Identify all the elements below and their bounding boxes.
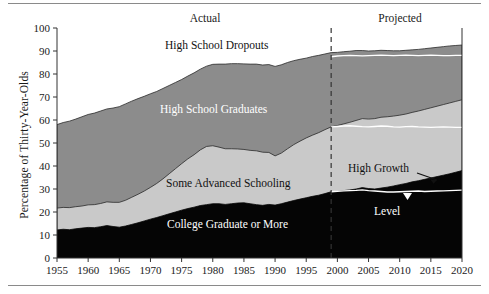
annotation-high-growth-label: High Growth	[348, 162, 409, 175]
x-tick-label: 1980	[202, 264, 225, 276]
x-tick-label: 1995	[295, 264, 318, 276]
x-tick-label: 1990	[264, 264, 287, 276]
x-tick-label: 1970	[139, 264, 162, 276]
x-tick-label: 1975	[171, 264, 194, 276]
annotation-level-label: Level	[374, 205, 400, 217]
band-label-high-school-dropouts: High School Dropouts	[165, 39, 269, 52]
x-tick-label: 2020	[451, 264, 474, 276]
stacked-area-chart: 0102030405060708090100 19551960196519701…	[0, 0, 489, 294]
x-tick-label: 2015	[420, 264, 443, 276]
y-tick-label: 60	[39, 114, 51, 126]
y-tick-label: 40	[39, 160, 51, 172]
y-tick-label: 20	[39, 206, 51, 218]
y-tick-label: 50	[39, 137, 51, 149]
band-label-college-graduate-or-more: College Graduate or More	[167, 218, 288, 231]
y-tick-label: 0	[45, 252, 51, 264]
y-tick-label: 90	[39, 45, 51, 57]
band-label-some-advanced-schooling: Some Advanced Schooling	[166, 177, 291, 190]
x-tick-group: 1955196019651970197519801985199019952000…	[46, 258, 474, 276]
band-label-high-school-graduates: High School Graduates	[160, 103, 268, 116]
x-tick-label: 2010	[389, 264, 412, 276]
x-tick-label: 1955	[46, 264, 69, 276]
figure-container: Percentage of Thirty-Year-Olds 010203040…	[0, 0, 489, 294]
y-tick-group: 0102030405060708090100	[34, 22, 58, 264]
y-tick-label: 70	[39, 91, 51, 103]
y-tick-label: 80	[39, 68, 51, 80]
x-tick-label: 1965	[108, 264, 131, 276]
x-tick-label: 1985	[233, 264, 256, 276]
y-tick-label: 30	[39, 183, 51, 195]
x-tick-label: 1960	[77, 264, 100, 276]
projected-period-label: Projected	[378, 12, 422, 25]
y-tick-label: 10	[39, 229, 51, 241]
x-tick-label: 2000	[326, 264, 349, 276]
actual-period-label: Actual	[190, 12, 221, 24]
x-tick-label: 2005	[358, 264, 381, 276]
y-tick-label: 100	[34, 22, 51, 34]
